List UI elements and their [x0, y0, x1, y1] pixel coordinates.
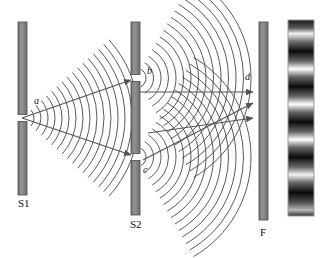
barrier-S1-segment [18, 122, 27, 196]
point-label-b: b [147, 65, 152, 76]
ray-a-to-c [22, 118, 131, 155]
wavefront-arc [52, 91, 62, 145]
barrier-S1-segment [18, 22, 27, 115]
wavefronts-from-b [141, 0, 251, 178]
wavefronts-from-c [141, 57, 251, 256]
wavefront-arc [73, 73, 90, 164]
wavefront-arc [164, 109, 191, 204]
wavefront-arc [156, 122, 176, 191]
wavefronts-from-a [31, 40, 139, 197]
wavefront-arc [194, 57, 251, 256]
barrier-S2-segment [131, 22, 140, 75]
point-label-c: c [143, 164, 148, 175]
interference-fringe-strip [288, 20, 314, 216]
barrier-S2-segment [131, 161, 140, 216]
barrier-F-segment [259, 22, 268, 220]
wavefront-arc [88, 58, 111, 177]
point-label-a: a [34, 95, 39, 106]
wavefront-arc [156, 43, 176, 112]
barrier-label-S1: S1 [18, 197, 30, 209]
wavefront-arc [67, 77, 83, 159]
wavefront-arc [152, 129, 168, 185]
wavefront-arc [57, 87, 69, 150]
figure-canvas: abcdS1S2F [0, 0, 323, 258]
point-label-d: d [245, 71, 251, 82]
wavefront-arc [36, 105, 41, 130]
barrier-S2-segment [131, 82, 140, 154]
wavefront-arc [152, 50, 168, 106]
fringe-pattern [288, 20, 314, 216]
label-group: abcdS1S2F [18, 65, 266, 238]
wavefront-arc [31, 110, 34, 126]
barrier-label-S2: S2 [130, 218, 142, 230]
wavefront-arc [164, 30, 191, 125]
wavefront-arc [41, 101, 48, 136]
optics-diagram: abcdS1S2F [0, 0, 323, 258]
wavefront-arc [149, 56, 161, 99]
barrier-label-F: F [260, 226, 266, 238]
wavefront-arc [141, 69, 146, 86]
wavefront-arc [149, 135, 161, 178]
